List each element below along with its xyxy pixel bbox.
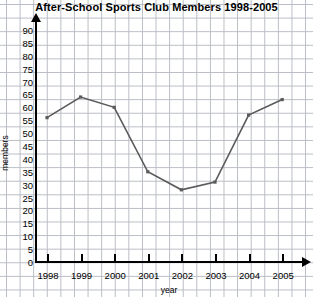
x-axis-label: year: [35, 285, 303, 295]
data-point-marker: [79, 95, 82, 98]
data-point-marker: [113, 106, 116, 109]
data-point-marker: [247, 113, 250, 116]
data-point-marker: [281, 98, 284, 101]
data-point-marker: [180, 188, 183, 191]
data-point-marker: [146, 170, 149, 173]
chart-figure: After-School Sports Club Members 1998-20…: [0, 0, 313, 297]
y-axis-label: members: [0, 135, 10, 170]
data-point-marker: [213, 180, 216, 183]
data-series-line: [0, 0, 313, 297]
data-point-marker: [45, 116, 48, 119]
